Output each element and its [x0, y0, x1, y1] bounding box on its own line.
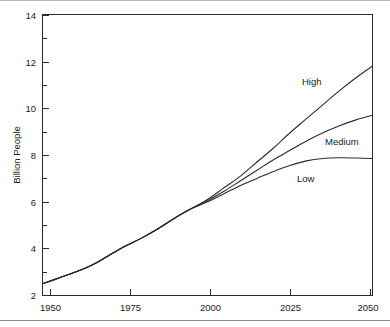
x-axis-major-ticks [51, 289, 371, 296]
population-projection-figure: 2 4 6 8 10 12 14 1950 1975 2000 2025 205… [0, 0, 390, 327]
y-tick-label-8: 8 [31, 150, 36, 161]
x-tick-label-1950: 1950 [40, 302, 61, 313]
x-tick-label-2025: 2025 [280, 302, 301, 313]
series-line-high [43, 66, 373, 284]
x-tick-label-2050: 2050 [357, 302, 378, 313]
x-tick-label-1975: 1975 [120, 302, 141, 313]
series-label-low: Low [297, 173, 315, 184]
series-line-low [43, 158, 373, 284]
bottom-divider-rule [0, 320, 390, 321]
y-tick-label-4: 4 [31, 243, 36, 254]
population-line-chart: 2 4 6 8 10 12 14 1950 1975 2000 2025 205… [0, 0, 390, 327]
series-label-medium: Medium [325, 136, 359, 147]
y-tick-label-12: 12 [25, 57, 36, 68]
x-tick-label-2000: 2000 [200, 302, 221, 313]
y-axis-major-ticks [43, 16, 49, 296]
y-tick-label-14: 14 [25, 10, 36, 21]
y-axis-title: Billion People [11, 126, 22, 184]
y-tick-label-2: 2 [31, 290, 36, 301]
series-label-high: High [302, 76, 322, 87]
plot-frame [43, 15, 373, 296]
y-tick-label-10: 10 [25, 103, 36, 114]
y-tick-label-6: 6 [31, 197, 36, 208]
